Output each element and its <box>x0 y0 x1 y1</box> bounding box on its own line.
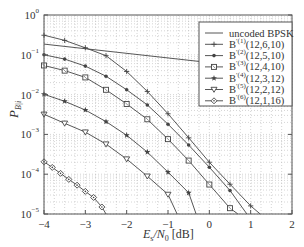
y-tick-label: 10−5 <box>21 206 40 220</box>
x-tick-label: 0 <box>207 218 213 230</box>
curve-series <box>41 91 196 214</box>
y-tick-label: 10−1 <box>21 47 40 61</box>
y-axis-label: PB|i <box>6 101 23 119</box>
y-tick-label: 10−2 <box>21 87 40 101</box>
y-tick-label: 10−4 <box>21 166 40 180</box>
y-tick-label: 10−3 <box>21 126 40 140</box>
legend: uncoded BPSKB′(1)(12,6,10)B′(2)(12,5,10)… <box>199 22 294 107</box>
x-tick-label: 1 <box>248 218 254 230</box>
x-tick-label: 2 <box>289 218 295 230</box>
x-axis-ticks: −4−3−2−1012 <box>38 210 295 230</box>
x-tick-label: −2 <box>121 218 133 230</box>
ber-chart: −4−3−2−1012 10010−110−210−310−410−5 PB|i… <box>0 0 304 247</box>
y-tick-label: 100 <box>25 7 40 21</box>
x-tick-label: −4 <box>38 218 50 230</box>
x-tick-label: −3 <box>79 218 91 230</box>
x-axis-label: Es/N0 [dB] <box>142 227 194 243</box>
curve-series <box>41 112 177 214</box>
